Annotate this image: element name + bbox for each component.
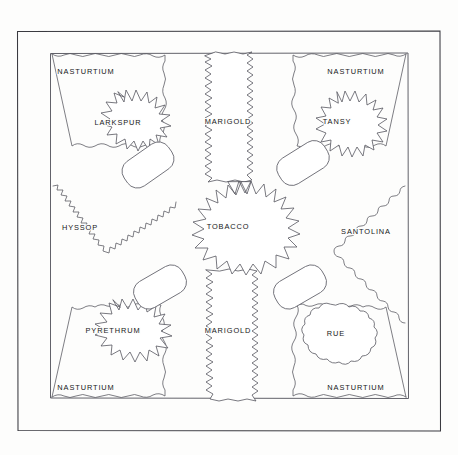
bed-label-santolina: SANTOLINA [341, 227, 391, 236]
bed-label-tansy: TANSY [323, 117, 352, 126]
bed-label-marigold-top: MARIGOLD [205, 117, 252, 126]
bed-label-larkspur: LARKSPUR [94, 118, 141, 127]
bed-label-hyssop: HYSSOP [62, 223, 98, 232]
garden-plan-canvas: NASTURTIUM NASTURTIUM NASTURTIUM NASTURT… [0, 0, 458, 455]
bed-label-marigold-bottom: MARIGOLD [205, 326, 252, 335]
garden-plan-drawing: NASTURTIUM NASTURTIUM NASTURTIUM NASTURT… [0, 0, 458, 455]
bed-label-rue: RUE [327, 329, 345, 338]
bed-label-pyrethrum: PYRETHRUM [86, 326, 141, 335]
bed-label-nasturtium-top-left: NASTURTIUM [57, 67, 114, 76]
bed-marigold-top[interactable]: MARIGOLD [205, 52, 253, 182]
bed-marigold-bottom[interactable]: MARIGOLD [205, 269, 258, 401]
bed-label-nasturtium-top-right: NASTURTIUM [327, 67, 384, 76]
bed-label-nasturtium-bottom-left: NASTURTIUM [57, 383, 114, 392]
marigold-bottom-outline [206, 269, 258, 401]
bed-label-tobacco: TOBACCO [207, 222, 250, 231]
bed-label-nasturtium-bottom-right: NASTURTIUM [327, 383, 384, 392]
